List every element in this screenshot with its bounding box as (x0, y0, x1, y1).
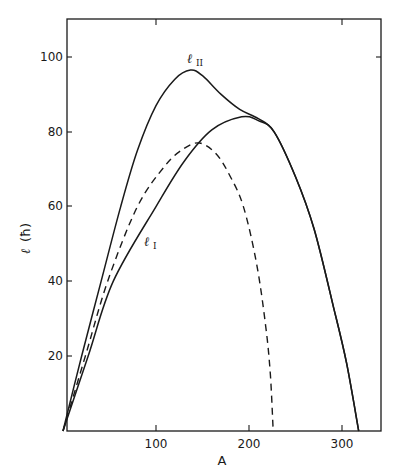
x-tick-label-300: 300 (331, 437, 354, 451)
y-tick-labels: 20 40 60 80 100 (40, 50, 63, 363)
curve-l-i (63, 116, 359, 431)
x-tick-label-100: 100 (145, 437, 168, 451)
y-axis-title-unit: (ħ) (18, 223, 33, 242)
label-l-ii-main: ℓ (187, 51, 193, 66)
label-l-ii-sub: II (196, 58, 204, 68)
y-tick-label-80: 80 (48, 125, 63, 139)
label-l-ii: ℓ II (187, 51, 204, 68)
label-l-i-sub: I (153, 241, 157, 251)
chart-canvas: 20 40 60 80 100 100 200 300 A ℓ (ħ) ℓ II… (0, 0, 398, 474)
x-tick-label-200: 200 (238, 437, 261, 451)
x-tick-labels: 100 200 300 (145, 437, 354, 451)
y-tick-label-40: 40 (48, 274, 63, 288)
y-axis-title: ℓ (ħ) (18, 223, 33, 254)
x-ticks (156, 19, 342, 431)
y-tick-label-60: 60 (48, 199, 63, 213)
y-tick-label-20: 20 (48, 349, 63, 363)
plot-frame (67, 19, 381, 431)
label-l-i-main: ℓ (144, 234, 150, 249)
label-l-i: ℓ I (144, 234, 157, 251)
curve-l-ii (63, 70, 359, 431)
y-axis-title-symbol: ℓ (18, 248, 33, 254)
x-axis-title: A (218, 453, 227, 468)
y-tick-label-100: 100 (40, 50, 63, 64)
